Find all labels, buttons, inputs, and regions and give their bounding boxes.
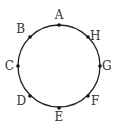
point-d-label: D [16,94,26,108]
point-b-dot [28,35,32,39]
point-c-dot [16,64,20,68]
point-h-label: H [90,29,100,43]
points-group: ABCDEFGH [5,8,112,124]
point-b-label: B [16,22,25,36]
point-a-label: A [54,8,64,22]
point-d-dot [28,94,32,98]
point-c-label: C [5,59,14,73]
point-a-dot [57,23,61,27]
point-g-label: G [102,59,112,73]
circle-diagram: ABCDEFGH [0,0,116,133]
point-e-label: E [55,110,64,124]
point-f-label: F [91,94,99,108]
point-f-dot [86,94,90,98]
